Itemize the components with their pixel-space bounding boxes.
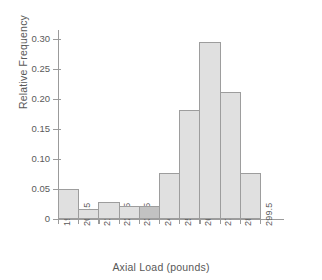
y-tick-label: 0.30 <box>14 33 50 44</box>
y-tick-label: 0 <box>14 213 50 224</box>
y-tick-label: 0.15 <box>14 123 50 134</box>
histogram-bar <box>220 92 241 219</box>
x-tick-mark <box>58 219 59 224</box>
x-tick-mark <box>159 219 160 224</box>
y-tick-label: 0.05 <box>14 183 50 194</box>
histogram-bar <box>199 42 220 219</box>
x-tick-mark <box>260 219 261 224</box>
histogram-chart: Relative Frequency 0.300.250.200.150.100… <box>0 0 322 280</box>
histogram-bar <box>98 202 119 219</box>
x-tick-mark <box>139 219 140 224</box>
histogram-bar <box>240 173 261 219</box>
x-tick-mark <box>240 219 241 224</box>
x-tick-mark <box>179 219 180 224</box>
bars-container <box>58 30 260 219</box>
histogram-bar <box>139 206 160 219</box>
y-tick-label: 0.20 <box>14 93 50 104</box>
histogram-bar <box>119 206 140 219</box>
x-tick-label: 299.5 <box>264 202 274 226</box>
x-tick-mark <box>78 219 79 224</box>
x-tick-mark <box>119 219 120 224</box>
histogram-bar <box>58 189 79 219</box>
x-axis-title: Axial Load (pounds) <box>0 261 322 273</box>
x-tick-mark <box>98 219 99 224</box>
x-tick-mark <box>220 219 221 224</box>
histogram-bar <box>78 209 99 219</box>
x-tick-mark <box>199 219 200 224</box>
histogram-bar <box>179 110 200 219</box>
y-tick-label: 0.10 <box>14 153 50 164</box>
histogram-bar <box>159 173 180 219</box>
y-tick-label: 0.25 <box>14 63 50 74</box>
